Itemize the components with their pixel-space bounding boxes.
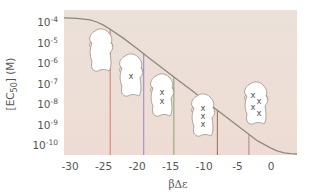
x-tick-label: -30 bbox=[61, 160, 78, 172]
protein-blob-0 bbox=[89, 29, 113, 71]
protein-blob-2: xx bbox=[150, 74, 174, 116]
x-tick-label: -20 bbox=[128, 160, 145, 172]
x-axis-label: βΔε bbox=[168, 178, 187, 190]
protein-blob-4: xxxx bbox=[244, 82, 268, 124]
mutation-mark: x bbox=[256, 108, 261, 118]
y-tick-label: 10-9 bbox=[37, 118, 58, 131]
mutation-mark: x bbox=[256, 96, 261, 106]
x-axis-ticks: -30-25-20-15-10-50 bbox=[61, 160, 274, 172]
x-tick-label: 0 bbox=[268, 160, 275, 172]
protein-blob-3: xxx bbox=[191, 94, 215, 136]
ec50-chart: xxxxxxxxxx 10-410-510-610-710-810-910-10… bbox=[0, 0, 314, 194]
y-tick-label: 10-4 bbox=[37, 15, 58, 28]
y-tick-label: 10-6 bbox=[37, 56, 58, 69]
y-axis-ticks: 10-410-510-610-710-810-910-10 bbox=[32, 15, 58, 151]
x-tick-label: -10 bbox=[195, 160, 212, 172]
mutation-mark: x bbox=[250, 102, 255, 112]
mutation-mark: x bbox=[200, 119, 205, 129]
x-tick-label: -15 bbox=[162, 160, 179, 172]
y-axis-label: [EC50] (M) bbox=[4, 58, 19, 111]
mutation-mark: x bbox=[128, 71, 133, 81]
y-tick-label: 10-10 bbox=[32, 138, 58, 151]
mutation-mark: x bbox=[159, 96, 164, 106]
y-tick-label: 10-5 bbox=[37, 36, 58, 49]
x-tick-label: -25 bbox=[95, 160, 112, 172]
protein-blob-1: x bbox=[119, 54, 143, 96]
mutation-mark: x bbox=[250, 90, 255, 100]
y-tick-label: 10-7 bbox=[37, 77, 58, 90]
y-tick-label: 10-8 bbox=[37, 97, 58, 110]
x-tick-label: -5 bbox=[232, 160, 242, 172]
